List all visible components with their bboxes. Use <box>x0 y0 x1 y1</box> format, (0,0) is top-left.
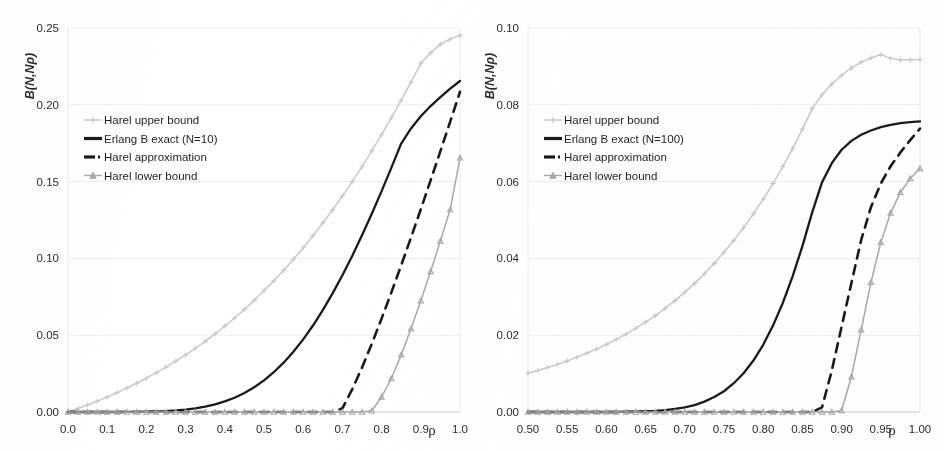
y-axis-ticklabels: 0.000.020.040.060.080.10 <box>497 22 520 418</box>
y-tick-label: 0.06 <box>497 176 519 188</box>
two-panel-figure: 0.00.10.20.30.40.50.60.70.80.91.00.000.0… <box>0 0 945 452</box>
legend-label: Harel upper bound <box>564 114 659 126</box>
x-tick-label: 0.2 <box>138 423 154 435</box>
x-tick-label: 0.9 <box>413 423 429 435</box>
y-axis-ticklabels: 0.000.050.100.150.200.25 <box>37 22 59 418</box>
legend-label: Harel approximation <box>104 151 207 163</box>
chart-panel-right: 0.500.550.600.650.700.750.800.850.900.95… <box>472 0 945 452</box>
x-tick-label: 0.75 <box>713 423 735 435</box>
x-tick-label: 0.0 <box>60 423 76 435</box>
x-tick-label: 0.4 <box>217 423 234 435</box>
x-tick-label: 0.60 <box>595 423 617 435</box>
y-tick-label: 0.15 <box>37 176 59 188</box>
y-tick-label: 0.08 <box>497 99 519 111</box>
x-tick-label: 0.1 <box>99 423 115 435</box>
right-chart-svg: 0.500.550.600.650.700.750.800.850.900.95… <box>472 0 945 452</box>
y-tick-label: 0.10 <box>37 252 59 264</box>
y-tick-label: 0.25 <box>37 22 59 34</box>
x-axis-ticklabels: 0.00.10.20.30.40.50.60.70.80.91.0 <box>60 423 468 435</box>
y-tick-label: 0.02 <box>497 329 519 341</box>
x-axis-label: ρ <box>428 422 436 438</box>
x-axis-ticklabels: 0.500.550.600.650.700.750.800.850.900.95… <box>517 423 931 435</box>
x-axis-label: ρ <box>888 422 896 438</box>
y-tick-label: 0.05 <box>37 329 59 341</box>
x-tick-label: 0.50 <box>517 423 539 435</box>
legend-label: Erlang B exact (N=100) <box>564 133 684 145</box>
x-tick-label: 0.5 <box>256 423 272 435</box>
y-axis-title: B(N,Nρ) <box>483 53 497 99</box>
legend-label: Harel lower bound <box>104 170 197 182</box>
left-chart-svg: 0.00.10.20.30.40.50.60.70.80.91.00.000.0… <box>0 0 472 452</box>
x-tick-label: 1.00 <box>909 423 931 435</box>
x-tick-label: 1.0 <box>452 423 468 435</box>
x-tick-label: 0.7 <box>334 423 350 435</box>
y-tick-label: 0.00 <box>497 406 519 418</box>
x-tick-label: 0.3 <box>178 423 194 435</box>
y-tick-label: 0.10 <box>497 22 519 34</box>
legend-label: Harel upper bound <box>104 114 199 126</box>
legend-label: Harel approximation <box>564 151 667 163</box>
x-tick-label: 0.8 <box>374 423 390 435</box>
x-tick-label: 0.90 <box>830 423 852 435</box>
chart-panel-left: 0.00.10.20.30.40.50.60.70.80.91.00.000.0… <box>0 0 472 452</box>
y-tick-label: 0.04 <box>497 252 520 264</box>
x-tick-label: 0.80 <box>752 423 774 435</box>
x-tick-label: 0.6 <box>295 423 311 435</box>
y-tick-label: 0.00 <box>37 406 59 418</box>
x-tick-label: 0.65 <box>634 423 656 435</box>
y-axis-title: B(N,Nρ) <box>23 53 37 99</box>
x-tick-label: 0.70 <box>674 423 696 435</box>
legend-label: Erlang B exact (N=10) <box>104 133 218 145</box>
y-tick-label: 0.20 <box>37 99 59 111</box>
legend-label: Harel lower bound <box>564 170 657 182</box>
x-tick-label: 0.85 <box>791 423 813 435</box>
x-tick-label: 0.55 <box>556 423 578 435</box>
